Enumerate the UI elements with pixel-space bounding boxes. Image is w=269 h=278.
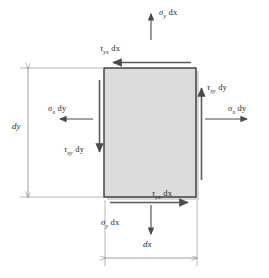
label-sigma-y-top: σy dx — [159, 7, 178, 19]
stress-element-body — [104, 68, 196, 197]
diagram-canvas — [0, 0, 269, 278]
label-sigma-x-left: σx dy — [48, 103, 67, 115]
label-dimension-dy: dy — [12, 121, 21, 131]
label-tau-yx-top: τyx dx — [100, 43, 120, 55]
label-sigma-x-right: σx dy — [228, 103, 247, 115]
label-sigma-y-bottom: σy dx — [101, 217, 120, 229]
label-tau-xy-left: τxy dy — [64, 144, 84, 156]
label-tau-xy-right: τxy dy — [207, 82, 227, 94]
label-dimension-dx: dx — [143, 239, 152, 249]
label-tau-yx-bottom: τyx dx — [152, 188, 172, 200]
stress-element-diagram: σy dx τyx dx τxy dy σx dy σx dy τxy dy τ… — [0, 0, 269, 278]
